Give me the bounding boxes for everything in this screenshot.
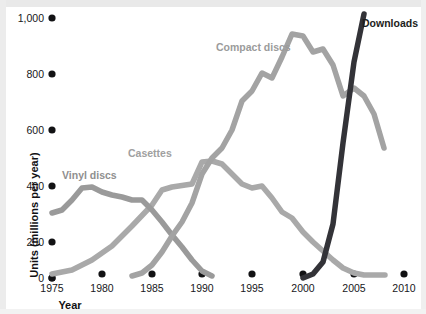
- x-tick-dot-1995: [248, 270, 255, 277]
- y-axis-title: Units (millions per year): [28, 152, 40, 278]
- x-tick-label-2005: 2005: [342, 282, 366, 294]
- line-chart-svg: 1,000 800 600 400 200 0: [0, 0, 426, 314]
- x-tick-dot-1985: [148, 270, 155, 277]
- x-tick-dot-1980: [98, 270, 105, 277]
- y-tick-dot-400: [48, 182, 55, 189]
- y-axis-tick-dots: [48, 14, 55, 281]
- x-tick-label-1980: 1980: [90, 282, 114, 294]
- y-tick-dot-1000: [48, 14, 55, 21]
- y-tick-dot-600: [48, 126, 55, 133]
- y-tick-dot-200: [48, 238, 55, 245]
- y-tick-label-600: 600: [26, 124, 44, 136]
- series-label-casettes: Casettes: [128, 147, 172, 159]
- x-tick-label-2000: 2000: [291, 282, 315, 294]
- series-label-vinyl: Vinyl discs: [62, 169, 117, 181]
- x-tick-label-1995: 1995: [240, 282, 264, 294]
- x-axis-title: Year: [58, 299, 82, 311]
- y-tick-label-800: 800: [26, 68, 44, 80]
- x-tick-label-1990: 1990: [190, 282, 214, 294]
- x-tick-label-2010: 2010: [392, 282, 416, 294]
- x-tick-dot-2010: [400, 270, 407, 277]
- series-label-downloads: Downloads: [362, 17, 418, 29]
- x-axis-tick-labels: 1975 1980 1985 1990 1995 2000 2005 2010: [40, 282, 416, 294]
- series-label-compact-discs: Compact discs: [216, 41, 291, 53]
- chart-figure: 1,000 800 600 400 200 0: [0, 0, 426, 314]
- y-tick-label-1000: 1,000: [18, 12, 44, 24]
- x-tick-label-1985: 1985: [140, 282, 164, 294]
- y-tick-dot-800: [48, 70, 55, 77]
- x-tick-label-1975: 1975: [40, 282, 64, 294]
- series-line-vinyl: [52, 187, 212, 276]
